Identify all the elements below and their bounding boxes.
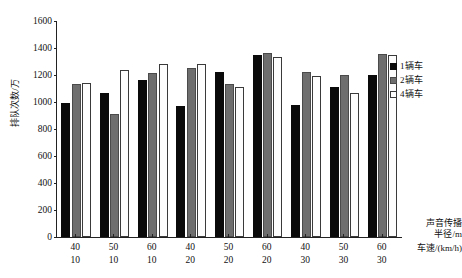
legend-label: 4辆车 [400, 89, 423, 99]
bar-group [134, 21, 172, 237]
plot-area: 02004006008001000120014001600 [56, 21, 402, 238]
legend-label: 1辆车 [400, 61, 423, 71]
bar [350, 93, 359, 237]
bar [61, 103, 70, 237]
bar [82, 83, 91, 237]
x-caption-line-1: 声音传播 [404, 218, 462, 229]
legend-label: 2辆车 [400, 75, 423, 85]
x-tick-speed: 30 [363, 254, 401, 267]
bar [312, 76, 321, 237]
bar [187, 68, 196, 237]
bar [215, 72, 224, 237]
chart-legend: 1辆车2辆车4辆车 [390, 59, 458, 101]
x-axis-caption: 声音传播 半径/m 车速/(km/h) [404, 218, 462, 254]
bar-group [287, 21, 325, 237]
x-tick: 4010 [56, 238, 94, 276]
x-tick: 4020 [171, 238, 209, 276]
bar [100, 93, 109, 237]
bar [110, 114, 119, 237]
x-tick: 6010 [133, 238, 171, 276]
bar-group [95, 21, 133, 237]
x-tick-mark [382, 234, 383, 238]
x-tick-speed: 20 [248, 254, 286, 267]
bar-group [210, 21, 248, 237]
bar [159, 64, 168, 237]
x-tick: 5010 [94, 238, 132, 276]
x-tick-mark [228, 234, 229, 238]
x-tick-mark [113, 234, 114, 238]
x-tick-radius: 60 [133, 241, 171, 254]
bar [120, 70, 129, 237]
bar [148, 73, 157, 237]
bar-group [325, 21, 363, 237]
bar-group [57, 21, 95, 237]
x-tick-mark [305, 234, 306, 238]
bar [235, 87, 244, 237]
legend-swatch-icon [390, 63, 397, 70]
x-tick-radius: 50 [209, 241, 247, 254]
bar [330, 87, 339, 237]
x-tick-radius: 60 [363, 241, 401, 254]
x-tick-speed: 20 [171, 254, 209, 267]
x-tick: 5030 [324, 238, 362, 276]
bar [197, 64, 206, 237]
x-tick-radius: 40 [56, 241, 94, 254]
x-tick-mark [75, 234, 76, 238]
x-tick-radius: 60 [248, 241, 286, 254]
bar [138, 80, 147, 237]
x-tick-mark [343, 234, 344, 238]
x-tick-speed: 20 [209, 254, 247, 267]
bar-groups [57, 21, 402, 237]
bar [225, 84, 234, 237]
x-tick: 6020 [248, 238, 286, 276]
x-tick-speed: 10 [133, 254, 171, 267]
x-tick-speed: 30 [286, 254, 324, 267]
x-tick-radius: 50 [94, 241, 132, 254]
bar [291, 105, 300, 237]
x-tick: 5020 [209, 238, 247, 276]
x-axis-ticks: 401050106010402050206020403050306030 [56, 238, 401, 276]
bar [263, 53, 272, 237]
x-caption-line-3: 车速/(km/h) [404, 243, 462, 254]
x-tick-radius: 50 [324, 241, 362, 254]
legend-swatch-icon [390, 77, 397, 84]
bar [368, 75, 377, 237]
x-caption-line-2: 半径/m [404, 229, 462, 240]
bar [253, 55, 262, 237]
x-tick-mark [190, 234, 191, 238]
x-tick-mark [152, 234, 153, 238]
legend-item[interactable]: 2辆车 [390, 73, 458, 87]
x-tick: 4030 [286, 238, 324, 276]
bar [340, 75, 349, 237]
bar [302, 72, 311, 237]
legend-item[interactable]: 4辆车 [390, 87, 458, 101]
x-tick-mark [267, 234, 268, 238]
x-tick: 6030 [363, 238, 401, 276]
bar-group [172, 21, 210, 237]
bar [176, 106, 185, 237]
x-tick-speed: 10 [56, 254, 94, 267]
x-tick-speed: 30 [324, 254, 362, 267]
bar-group [364, 21, 402, 237]
bar [72, 84, 81, 237]
legend-item[interactable]: 1辆车 [390, 59, 458, 73]
x-tick-radius: 40 [286, 241, 324, 254]
x-tick-radius: 40 [171, 241, 209, 254]
bar-group [249, 21, 287, 237]
legend-swatch-icon [390, 91, 397, 98]
x-tick-speed: 10 [94, 254, 132, 267]
y-axis-label: 排队次数/万 [10, 58, 20, 148]
bar [378, 54, 387, 237]
bar [273, 57, 282, 237]
